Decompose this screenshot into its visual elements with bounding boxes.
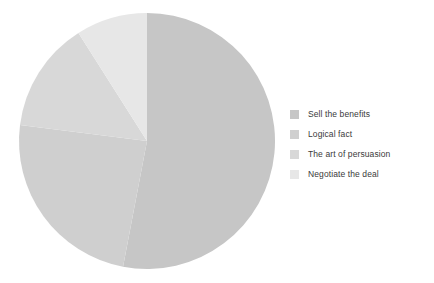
legend-item-sell-the-benefits[interactable]: Sell the benefits [290,104,434,124]
legend-item-negotiate-the-deal[interactable]: Negotiate the deal [290,164,434,184]
legend-swatch-icon [290,130,299,139]
legend-swatch-icon [290,150,299,159]
pie-chart-figure: Sell the benefits Logical fact The art o… [0,0,434,283]
legend-swatch-icon [290,110,299,119]
pie-plot-area [0,0,290,283]
legend-item-the-art-of-persuasion[interactable]: The art of persuasion [290,144,434,164]
legend-item-label: Logical fact [308,129,352,139]
legend-item-label: Sell the benefits [308,109,370,119]
legend-item-label: The art of persuasion [308,149,390,159]
legend-item-logical-fact[interactable]: Logical fact [290,124,434,144]
chart-legend: Sell the benefits Logical fact The art o… [290,104,434,184]
pie-svg [0,0,290,283]
legend-swatch-icon [290,170,299,179]
pie-slice-group [19,13,275,269]
legend-item-label: Negotiate the deal [308,169,379,179]
